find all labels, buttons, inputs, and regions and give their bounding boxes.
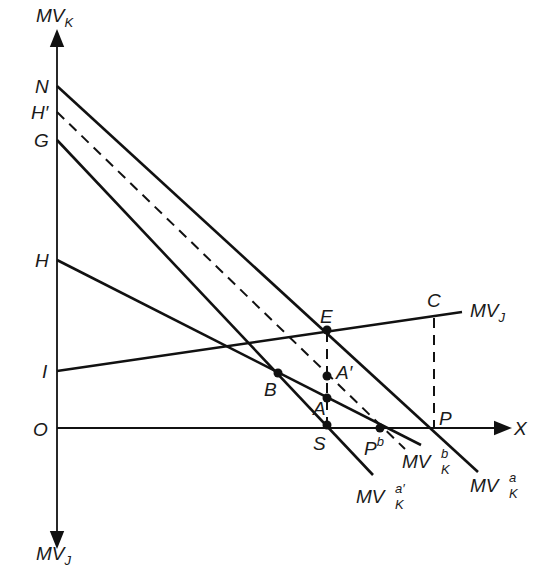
svg-text:K: K	[509, 486, 519, 501]
point-s	[323, 421, 332, 430]
point-a-prime	[323, 372, 332, 381]
label-c: C	[427, 290, 441, 311]
svg-text:b: b	[441, 446, 448, 461]
label-h-prime: H′	[31, 102, 50, 123]
label-p: P	[439, 408, 452, 429]
x-axis-label: X	[513, 418, 528, 439]
point-b	[274, 369, 283, 378]
label-mvk-b: MV b K	[402, 446, 451, 477]
label-h: H	[35, 250, 49, 271]
label-b: B	[264, 379, 277, 400]
label-mvk-a-prime: MV a′ K	[356, 481, 405, 512]
diagram-canvas: MVK MVJ X O N H′ G H I E C A′ A B S P Pb…	[0, 0, 556, 568]
mvk-a-line	[57, 86, 478, 472]
label-mvk-a: MV a K	[470, 470, 519, 501]
svg-text:K: K	[395, 497, 405, 512]
label-s: S	[313, 433, 326, 454]
label-pb: Pb	[364, 434, 384, 459]
svg-text:MV: MV	[356, 486, 387, 507]
svg-text:a: a	[509, 470, 516, 485]
point-pb	[376, 424, 385, 433]
svg-text:MV: MV	[402, 451, 433, 472]
label-i: I	[42, 361, 48, 382]
y-axis-up-label: MVK	[36, 5, 75, 30]
svg-text:K: K	[441, 462, 451, 477]
label-g: G	[34, 130, 49, 151]
label-n: N	[35, 76, 49, 97]
mvk-b-line	[57, 260, 421, 445]
origin-label: O	[33, 419, 48, 440]
label-a-prime: A′	[335, 362, 354, 383]
label-a: A	[312, 398, 326, 419]
y-axis-down-label: MVJ	[36, 543, 72, 568]
svg-text:MV: MV	[470, 475, 501, 496]
label-e: E	[320, 306, 333, 327]
h-prime-dashed-line	[57, 112, 405, 449]
label-mvj-curve: MVJ	[470, 300, 506, 325]
svg-text:a′: a′	[395, 481, 405, 496]
